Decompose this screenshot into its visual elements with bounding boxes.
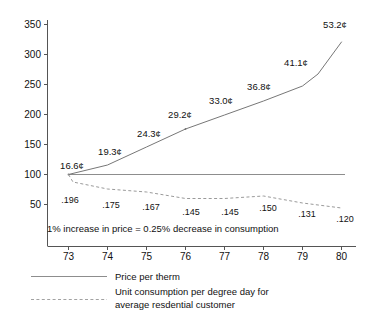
y-tick-label-150: 150 <box>24 139 41 150</box>
price-label-78: 36.8¢ <box>247 81 271 92</box>
x-axis: 73 74 75 76 77 78 79 80 <box>48 247 357 263</box>
price-label-80: 53.2¢ <box>323 19 347 30</box>
legend-item-price-per-therm: Price per therm <box>31 271 180 282</box>
y-tick-label-100: 100 <box>24 169 41 180</box>
price-point-76 <box>185 128 187 130</box>
x-tick-label-76: 76 <box>180 251 192 262</box>
consumption-label-73: .196 <box>61 195 79 205</box>
y-tick-label-200: 200 <box>24 109 41 120</box>
legend-label-price-per-therm: Price per therm <box>115 271 180 282</box>
x-tick-label-75: 75 <box>141 251 153 262</box>
price-label-76: 29.2¢ <box>168 109 192 120</box>
legend-label-unit-consumption-line1: Unit consumption per degree day for <box>115 286 269 297</box>
price-label-74: 19.3¢ <box>98 146 122 157</box>
x-tick-label-78: 78 <box>258 251 270 262</box>
x-tick-label-80: 80 <box>336 251 348 262</box>
consumption-label-75: .167 <box>142 202 160 212</box>
consumption-label-74: .175 <box>102 200 120 210</box>
price-consumption-line-chart: 350 300 250 200 150 100 50 73 74 75 76 7… <box>0 0 368 319</box>
consumption-label-79: .131 <box>298 209 316 219</box>
price-label-79: 41.1¢ <box>284 57 308 68</box>
elasticity-annotation: 1% increase in price = 0.25% decrease in… <box>47 223 279 234</box>
price-label-77: 33.0¢ <box>209 95 233 106</box>
consumption-label-78: .150 <box>259 203 277 213</box>
x-tick-label-79: 79 <box>297 251 309 262</box>
y-tick-label-350: 350 <box>24 19 41 30</box>
consumption-label-76: .145 <box>182 207 200 217</box>
x-tick-label-73: 73 <box>63 251 75 262</box>
x-tick-label-77: 77 <box>219 251 231 262</box>
price-label-75: 24.3¢ <box>137 128 161 139</box>
chart-legend: Price per therm Unit consumption per deg… <box>31 271 269 310</box>
y-tick-label-300: 300 <box>24 49 41 60</box>
x-tick-label-74: 74 <box>102 251 114 262</box>
price-label-73: 16.6¢ <box>60 160 84 171</box>
legend-item-unit-consumption: Unit consumption per degree day for aver… <box>31 286 269 310</box>
consumption-label-77: .145 <box>221 207 239 217</box>
legend-label-unit-consumption-line2: average resdential customer <box>115 299 235 310</box>
y-axis: 350 300 250 200 150 100 50 <box>24 19 47 246</box>
consumption-label-80: .120 <box>336 214 354 224</box>
chart-figure: 350 300 250 200 150 100 50 73 74 75 76 7… <box>0 0 368 319</box>
y-tick-label-50: 50 <box>30 199 42 210</box>
y-tick-label-250: 250 <box>24 79 41 90</box>
